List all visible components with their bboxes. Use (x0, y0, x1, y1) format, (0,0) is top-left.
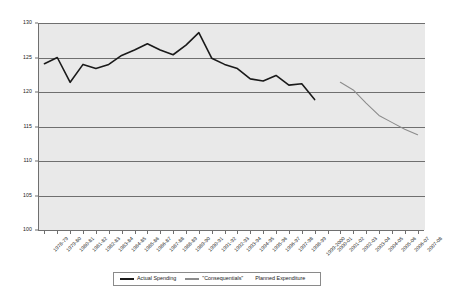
legend-item-actual-spending[interactable]: Actual Spending (120, 276, 176, 281)
x-tick-mark (57, 231, 58, 234)
x-tick-mark (392, 231, 393, 234)
x-tick-mark (122, 231, 123, 234)
x-tick-mark (289, 231, 290, 234)
x-tick-mark (83, 231, 84, 234)
x-tick-mark (96, 231, 97, 234)
legend-label: "Consequentials" (202, 276, 243, 281)
y-tick-label-110: 110 (23, 158, 32, 163)
x-tick-mark (109, 231, 110, 234)
y-tick-label-120: 120 (23, 89, 32, 94)
y-axis: 130125120115110105100 (0, 0, 38, 299)
chart-legend: Actual Spending"Consequentials"Planned E… (113, 272, 321, 286)
y-tick-label-115: 115 (23, 124, 32, 129)
legend-label: Planned Expenditure (255, 276, 305, 281)
series-layer (38, 23, 424, 230)
y-tick-label-125: 125 (23, 55, 32, 60)
y-tick-label-100: 100 (23, 227, 32, 232)
y-tick-label-105: 105 (23, 193, 32, 198)
line-chart: 130125120115110105100 1978-791979-801980… (0, 0, 464, 299)
x-tick-mark (276, 231, 277, 234)
x-tick-mark (225, 231, 226, 234)
x-tick-mark (315, 231, 316, 234)
series-line-actual-spending (44, 33, 314, 100)
x-tick-mark (44, 231, 45, 234)
x-tick-mark (250, 231, 251, 234)
legend-label: Actual Spending (137, 276, 176, 281)
x-tick-mark (186, 231, 187, 234)
x-tick-mark (405, 231, 406, 234)
legend-swatch-icon (120, 278, 134, 280)
x-tick-mark (147, 231, 148, 234)
x-tick-mark (379, 231, 380, 234)
x-tick-mark (340, 231, 341, 234)
x-tick-mark (160, 231, 161, 234)
x-tick-mark (366, 231, 367, 234)
x-tick-mark (135, 231, 136, 234)
x-tick-mark (173, 231, 174, 234)
legend-item-consequentials[interactable]: "Consequentials" (185, 276, 243, 281)
y-tick-label-130: 130 (23, 20, 32, 25)
x-tick-mark (302, 231, 303, 234)
x-tick-mark (418, 231, 419, 234)
x-tick-mark (199, 231, 200, 234)
legend-item-planned-expenditure[interactable]: Planned Expenditure (252, 276, 305, 281)
x-tick-mark (212, 231, 213, 234)
legend-swatch-icon (185, 278, 199, 280)
x-tick-mark (237, 231, 238, 234)
x-tick-mark (353, 231, 354, 234)
x-tick-mark (263, 231, 264, 234)
series-line-consequentials (340, 82, 417, 134)
x-tick-mark (70, 231, 71, 234)
x-tick-mark (328, 231, 329, 234)
